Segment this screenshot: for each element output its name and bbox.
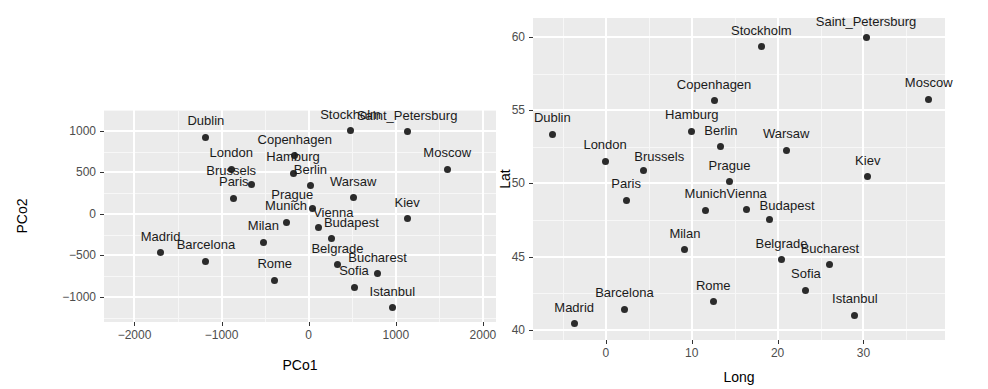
- data-point[interactable]: [778, 256, 785, 263]
- data-point-label: Copenhagen: [677, 78, 751, 91]
- data-point-label: Stockholm: [731, 24, 792, 37]
- data-point-label: Berlin: [704, 124, 737, 137]
- y-tick-mark: [529, 330, 533, 331]
- data-point[interactable]: [864, 173, 871, 180]
- y-tick-label: 50: [512, 177, 525, 189]
- y-tick-label: 55: [512, 104, 525, 116]
- data-point-label: Warsaw: [763, 127, 809, 140]
- data-point-label: Istanbul: [832, 292, 878, 305]
- figure-root: −1000−50005001000−2000−1000010002000Dubl…: [0, 0, 988, 389]
- data-point[interactable]: [549, 131, 556, 138]
- data-point-label: Belgrade: [755, 237, 807, 250]
- x-tick-mark: [692, 340, 693, 344]
- data-point[interactable]: [925, 96, 932, 103]
- gridline-major-vertical: [691, 18, 693, 340]
- data-point[interactable]: [851, 312, 858, 319]
- data-point[interactable]: [681, 246, 688, 253]
- gridline-major-horizontal: [533, 182, 945, 184]
- gridline-major-horizontal: [533, 256, 945, 258]
- geo-y-axis-title: Lat: [498, 169, 512, 188]
- geo-panel-wrap: 40455055600102030Saint_PetersburgStockho…: [0, 0, 988, 389]
- data-point-label: Moscow: [905, 76, 953, 89]
- data-point-label: Madrid: [554, 301, 594, 314]
- data-point[interactable]: [640, 167, 647, 174]
- data-point-label: Sofia: [791, 267, 821, 280]
- x-tick-label: 0: [603, 347, 610, 359]
- gridline-minor-horizontal: [533, 74, 945, 75]
- y-tick-label: 45: [512, 251, 525, 263]
- geo-x-axis-title: Long: [723, 370, 754, 384]
- data-point-label: Rome: [696, 279, 731, 292]
- data-point[interactable]: [711, 97, 718, 104]
- y-tick-mark: [529, 110, 533, 111]
- data-point-label: Dublin: [534, 111, 571, 124]
- x-tick-mark: [606, 340, 607, 344]
- data-point-label: London: [583, 138, 626, 151]
- data-point-label: Barcelona: [595, 286, 654, 299]
- data-point[interactable]: [717, 143, 724, 150]
- data-point-label: Milan: [669, 227, 700, 240]
- gridline-major-horizontal: [533, 109, 945, 111]
- x-tick-mark: [778, 340, 779, 344]
- data-point[interactable]: [621, 306, 628, 313]
- y-tick-label: 40: [512, 324, 525, 336]
- gridline-major-vertical: [777, 18, 779, 340]
- data-point[interactable]: [710, 298, 717, 305]
- data-point[interactable]: [688, 128, 695, 135]
- data-point-label: Brussels: [634, 150, 684, 163]
- y-tick-mark: [529, 37, 533, 38]
- data-point-label: Budapest: [760, 199, 815, 212]
- gridline-minor-vertical: [563, 18, 564, 340]
- y-tick-mark: [529, 257, 533, 258]
- y-tick-label: 60: [512, 31, 525, 43]
- data-point[interactable]: [766, 216, 773, 223]
- data-point[interactable]: [702, 207, 709, 214]
- data-point[interactable]: [743, 206, 750, 213]
- gridline-minor-vertical: [821, 18, 822, 340]
- data-point-label: Hamburg: [665, 108, 718, 121]
- x-tick-mark: [863, 340, 864, 344]
- data-point[interactable]: [758, 43, 765, 50]
- gridline-minor-vertical: [735, 18, 736, 340]
- data-point[interactable]: [783, 147, 790, 154]
- data-point-label: Munich: [685, 187, 727, 200]
- data-point-label: Paris: [611, 177, 641, 190]
- y-tick-mark: [529, 183, 533, 184]
- gridline-minor-vertical: [906, 18, 907, 340]
- data-point-label: Kiev: [855, 154, 880, 167]
- data-point[interactable]: [571, 320, 578, 327]
- gridline-minor-horizontal: [533, 220, 945, 221]
- x-tick-label: 20: [771, 347, 784, 359]
- data-point-label: Bucharest: [801, 242, 860, 255]
- data-point[interactable]: [863, 34, 870, 41]
- data-point[interactable]: [623, 197, 630, 204]
- x-tick-label: 10: [685, 347, 698, 359]
- data-point[interactable]: [826, 261, 833, 268]
- data-point-label: Saint_Petersburg: [816, 15, 916, 28]
- gridline-major-horizontal: [533, 329, 945, 331]
- x-tick-label: 30: [857, 347, 870, 359]
- data-point-label: Prague: [709, 159, 751, 172]
- data-point[interactable]: [602, 158, 609, 165]
